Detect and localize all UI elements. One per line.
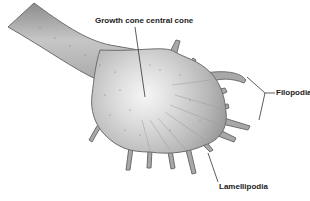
growth-cone-diagram: Growth cone central cone Filopodia Lamel… xyxy=(0,0,310,201)
filopodia-pointer xyxy=(247,77,265,120)
lamellipodia-pointer xyxy=(208,153,218,182)
growth-cone-body xyxy=(92,49,227,153)
label-filopodia: Filopodia xyxy=(276,88,310,97)
label-central-cone: Growth cone central cone xyxy=(95,16,193,25)
label-lamellipodia: Lamellipodia xyxy=(219,182,268,191)
growth-cone-illustration xyxy=(0,0,310,201)
